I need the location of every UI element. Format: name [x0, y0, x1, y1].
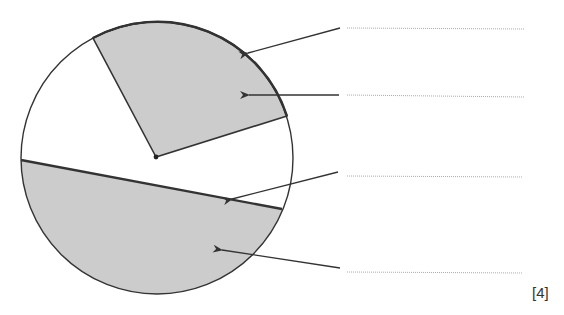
answer-line-arc[interactable]: [347, 28, 524, 29]
centre-point: [154, 155, 159, 160]
shaded-segment: [10, 158, 300, 300]
shaded-sector: [93, 22, 287, 157]
circle-diagram: [0, 0, 564, 315]
answer-line-segment[interactable]: [347, 272, 523, 273]
chord-label-arrow: [232, 172, 338, 199]
answer-line-chord[interactable]: [347, 176, 523, 177]
answer-line-sector[interactable]: [347, 95, 524, 97]
arc-label-arrow: [248, 28, 340, 53]
marks-label: [4]: [532, 284, 549, 301]
